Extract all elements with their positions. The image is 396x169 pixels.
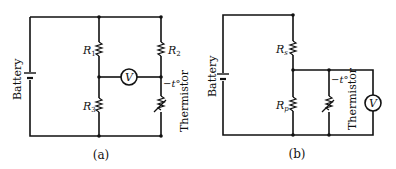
rs-label: Rs xyxy=(275,43,288,57)
r1-label: R1 xyxy=(82,44,96,58)
voltmeter-b-label: V xyxy=(369,97,378,110)
caption-b: (b) xyxy=(288,147,305,161)
circuit-b-outer-wire xyxy=(223,15,293,135)
thermistor-label-b: Thermistor xyxy=(346,67,359,130)
thermistor-label-a: Thermistor xyxy=(178,69,191,132)
rp-label: Rp xyxy=(275,99,289,113)
r3-label: R3 xyxy=(82,100,96,114)
battery-label-b: Battery xyxy=(206,55,219,97)
voltmeter-a-label: V xyxy=(125,71,134,84)
caption-a: (a) xyxy=(93,148,110,162)
circuit-a xyxy=(30,17,161,136)
battery-label-a: Battery xyxy=(11,58,24,100)
r2-label: R2 xyxy=(167,44,181,58)
